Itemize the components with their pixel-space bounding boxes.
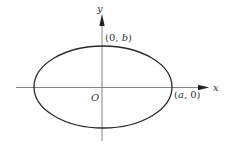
ellipse-diagram: y x O (0, b) (a, 0) [0, 0, 234, 148]
origin-label: O [91, 92, 99, 103]
ellipse-curve [34, 46, 172, 128]
point-label-a-0: (a, 0) [174, 89, 201, 100]
point-label-0-b: (0, b) [105, 32, 132, 43]
x-axis-label: x [213, 82, 219, 93]
y-axis-label: y [96, 3, 103, 14]
y-axis-arrow-icon [99, 14, 104, 26]
